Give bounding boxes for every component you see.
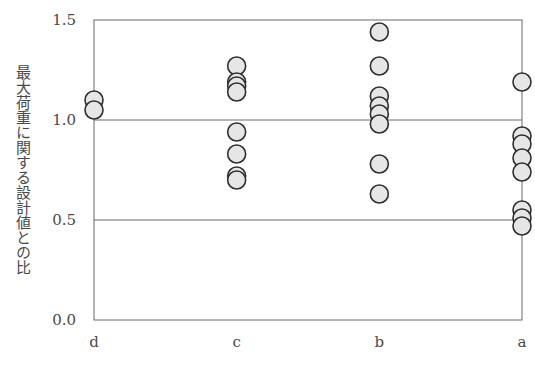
x-axis-categories: dcba xyxy=(89,333,526,351)
data-point-c xyxy=(228,123,246,141)
y-tick-label: 1.0 xyxy=(52,111,76,129)
data-point-b xyxy=(370,23,388,41)
data-point-b xyxy=(370,57,388,75)
plot-frame xyxy=(94,20,522,320)
data-point-c xyxy=(228,171,246,189)
scatter-chart: 最大荷重に関する設計値との比 0.00.51.01.5 dcba xyxy=(0,0,535,366)
y-axis-label: 最大荷重に関する設計値との比 xyxy=(13,65,31,275)
data-point-a xyxy=(513,217,531,235)
data-point-b xyxy=(370,115,388,133)
data-point-b xyxy=(370,185,388,203)
data-point-d xyxy=(85,101,103,119)
y-tick-label: 0.5 xyxy=(52,211,76,229)
gridlines xyxy=(94,120,522,220)
x-category-label: c xyxy=(232,333,240,351)
y-tick-label: 1.5 xyxy=(52,11,76,29)
data-point-c xyxy=(228,83,246,101)
data-point-b xyxy=(370,155,388,173)
y-axis-ticks: 0.00.51.01.5 xyxy=(52,11,76,329)
data-point-a xyxy=(513,73,531,91)
x-category-label: d xyxy=(89,333,99,351)
data-points xyxy=(85,23,531,235)
y-tick-label: 0.0 xyxy=(52,311,76,329)
data-point-a xyxy=(513,163,531,181)
data-point-c xyxy=(228,145,246,163)
x-category-label: a xyxy=(518,333,527,351)
x-category-label: b xyxy=(375,333,385,351)
